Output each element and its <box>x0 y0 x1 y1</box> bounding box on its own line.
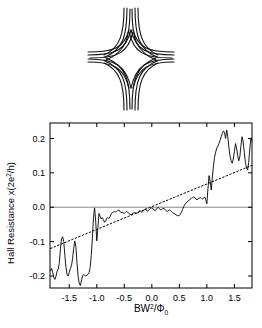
y-axis-tick-labels: 0.20.10.0-0.1-0.2 <box>29 134 45 282</box>
y-tick-label: -0.2 <box>29 271 45 281</box>
hall-resistance-chart: -1.5-1.0-0.50.00.51.01.5 0.20.10.0-0.1-0… <box>0 116 262 328</box>
hall-cross-device-schematic <box>0 0 262 118</box>
hall-resistance-trace <box>51 130 252 286</box>
x-axis-label: BW2/Φ0 <box>134 303 169 316</box>
y-tick-label: 0.2 <box>32 134 45 144</box>
x-tick-label: 0.0 <box>146 293 159 303</box>
y-tick-label: -0.1 <box>29 237 45 247</box>
y-axis-label: Hall Resistance x(2e2/h) <box>5 162 16 264</box>
x-tick-label: -1.5 <box>62 293 78 303</box>
x-axis-ticks <box>69 123 234 288</box>
trajectory-path <box>138 63 158 110</box>
cross-trajectory-group <box>88 8 174 110</box>
y-tick-label: 0.1 <box>32 168 45 178</box>
trajectory-path <box>104 63 124 110</box>
x-axis-tick-labels: -1.5-1.0-0.50.00.51.01.5 <box>62 293 241 303</box>
chart-canvas: -1.5-1.0-0.50.00.51.01.5 0.20.10.0-0.1-0… <box>0 116 262 328</box>
y-tick-label: 0.0 <box>32 202 45 212</box>
x-tick-label: -1.0 <box>89 293 105 303</box>
x-tick-label: -0.5 <box>117 293 133 303</box>
x-tick-label: 1.0 <box>201 293 214 303</box>
plot-frame <box>50 123 252 288</box>
x-tick-label: 0.5 <box>173 293 186 303</box>
device-schematic-figure <box>0 0 262 118</box>
x-tick-label: 1.5 <box>228 293 241 303</box>
data-polyline <box>51 130 252 286</box>
